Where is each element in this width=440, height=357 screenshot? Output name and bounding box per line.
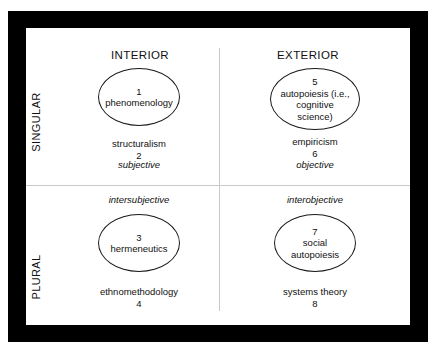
quadrant-lower-right-ellipse-wrap: 7 social autopoiesis	[226, 214, 404, 276]
quadrant-lower-left-below: ethnomethodology 4	[50, 286, 228, 309]
below-number-4: 4	[50, 298, 228, 310]
quadrant-upper-left-below: structuralism 2	[50, 138, 228, 161]
column-header-interior: INTERIOR	[60, 49, 220, 61]
below-label-6: empiricism	[226, 136, 404, 148]
axis-label-subjective: subjective	[50, 159, 228, 170]
axis-label-interobjective: interobjective	[226, 194, 404, 205]
below-label-4: ethnomethodology	[50, 286, 228, 298]
below-number-8: 8	[226, 298, 404, 310]
quadrant-lower-right-below: systems theory 8	[226, 286, 404, 309]
quadrant-upper-right-ellipse-wrap: 5 autopoiesis (i.e., cognitive science)	[226, 68, 404, 130]
quadrant-lower-left-ellipse-wrap: 3 hermeneutics	[50, 214, 228, 276]
four-quadrant-figure: SINGULAR PLURAL INTERIOR EXTERIOR 1 phen…	[0, 0, 440, 357]
quadrant-upper-left-ellipse-wrap: 1 phenomenology	[50, 68, 228, 130]
ellipse-shape-5	[270, 68, 360, 130]
below-number-6: 6	[226, 148, 404, 160]
below-label-8: systems theory	[226, 286, 404, 298]
quadrant-lower-left: 3 hermeneutics ethnomethodology 4	[50, 214, 228, 309]
row-label-plural: PLURAL	[30, 217, 42, 337]
column-header-exterior: EXTERIOR	[228, 49, 388, 61]
row-label-singular: SINGULAR	[30, 62, 42, 182]
quadrant-upper-left: 1 phenomenology structuralism 2	[50, 68, 228, 161]
quadrant-upper-right: 5 autopoiesis (i.e., cognitive science) …	[226, 68, 404, 159]
ellipse-shape-7	[274, 214, 356, 272]
ellipse-shape-3	[98, 214, 180, 272]
axis-label-objective: objective	[226, 159, 404, 170]
ellipse-shape-1	[98, 68, 180, 126]
horizontal-divider	[26, 185, 410, 186]
figure-canvas: SINGULAR PLURAL INTERIOR EXTERIOR 1 phen…	[26, 28, 410, 325]
axis-label-intersubjective: intersubjective	[50, 194, 228, 205]
quadrant-lower-right: 7 social autopoiesis systems theory 8	[226, 214, 404, 309]
quadrant-upper-right-below: empiricism 6	[226, 136, 404, 159]
below-label-2: structuralism	[50, 138, 228, 150]
